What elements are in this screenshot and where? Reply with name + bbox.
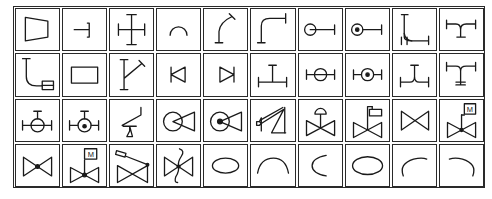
cell-lateral-branch (109, 53, 154, 96)
y-branch-icon (440, 9, 483, 50)
tee-offset-icon (440, 54, 483, 95)
cell-cap-end (62, 8, 107, 51)
plug-valve-icon (16, 100, 59, 141)
cell-ball-check (156, 99, 201, 142)
arc-top-left-icon (393, 145, 436, 186)
cell-tee-away (345, 53, 390, 96)
tee-toward-icon (299, 54, 342, 95)
diaphragm-valve-icon (299, 100, 342, 141)
cell-diaphragm-valve (298, 99, 343, 142)
cell-y-tee (392, 53, 437, 96)
reducer-icon (16, 9, 59, 50)
check-left-icon (157, 54, 200, 95)
arc-bend-icon (157, 9, 200, 50)
arc-top-right-icon (440, 145, 483, 186)
cell-tee-offset (439, 53, 484, 96)
double-elbow-icon (393, 9, 436, 50)
cell-ellipse-wide (345, 144, 390, 187)
cell-motor-valve: M (439, 99, 484, 142)
cell-lever-valve (109, 144, 154, 187)
motor-valve-icon: M (440, 100, 483, 141)
cell-check-left (156, 53, 201, 96)
arc-top-icon (251, 145, 294, 186)
cell-tee (250, 53, 295, 96)
plug-valve-dot-icon (63, 100, 106, 141)
ellipse-wide-icon (346, 145, 389, 186)
svg-text:M: M (88, 150, 94, 159)
cell-motor-globe-valve: M (62, 144, 107, 187)
ellipse-icon (204, 145, 247, 186)
cell-ellipse (203, 144, 248, 187)
symbol-grid: M M (15, 8, 484, 187)
cell-elbow-90 (250, 8, 295, 51)
cell-curved-bend (203, 8, 248, 51)
solenoid-valve-icon (346, 100, 389, 141)
cell-arc-left (298, 144, 343, 187)
cell-double-elbow (392, 8, 437, 51)
tee-icon (251, 54, 294, 95)
ball-check-icon (157, 100, 200, 141)
cell-arc-top (250, 144, 295, 187)
cell-weight-loaded-valve (109, 99, 154, 142)
cell-spring-safety-valve (250, 99, 295, 142)
cell-ball-check-dot (203, 99, 248, 142)
spring-safety-valve-icon (251, 100, 294, 141)
motor-globe-valve-icon: M (63, 145, 106, 186)
cell-arc-top-left (392, 144, 437, 187)
cell-plug-valve (15, 99, 60, 142)
elbow-90-flanged-icon (251, 9, 294, 50)
cell-elbow-toward (298, 8, 343, 51)
arc-left-icon (299, 145, 342, 186)
lever-valve-icon (110, 145, 153, 186)
y-tee-icon (393, 54, 436, 95)
cell-gate-valve (392, 99, 437, 142)
elbow-away-icon (346, 9, 389, 50)
cross-tee-icon (110, 9, 153, 50)
lateral-branch-icon (110, 54, 153, 95)
gate-valve-icon (393, 100, 436, 141)
cell-cross-tee (109, 8, 154, 51)
hose-connection-icon (16, 54, 59, 95)
cell-arc-bend (156, 8, 201, 51)
svg-text:M: M (467, 105, 473, 114)
cell-butterfly-s-valve (156, 144, 201, 187)
weight-loaded-valve-icon (110, 100, 153, 141)
cap-end-icon (63, 9, 106, 50)
elbow-toward-icon (299, 9, 342, 50)
cell-arc-top-right (439, 144, 484, 187)
cell-plug-valve-dot (62, 99, 107, 142)
cell-check-right (203, 53, 248, 96)
globe-valve-icon (16, 145, 59, 186)
tee-away-icon (346, 54, 389, 95)
ball-check-dot-icon (204, 100, 247, 141)
curved-bend-flanged-icon (204, 9, 247, 50)
cell-tee-toward (298, 53, 343, 96)
cell-globe-valve (15, 144, 60, 187)
rectangle-icon (63, 54, 106, 95)
cell-reducer (15, 8, 60, 51)
cell-y-branch (439, 8, 484, 51)
cell-hose-connection (15, 53, 60, 96)
cell-rectangle (62, 53, 107, 96)
butterfly-s-valve-icon (157, 145, 200, 186)
check-right-icon (204, 54, 247, 95)
cell-elbow-away (345, 8, 390, 51)
cell-solenoid-valve (345, 99, 390, 142)
